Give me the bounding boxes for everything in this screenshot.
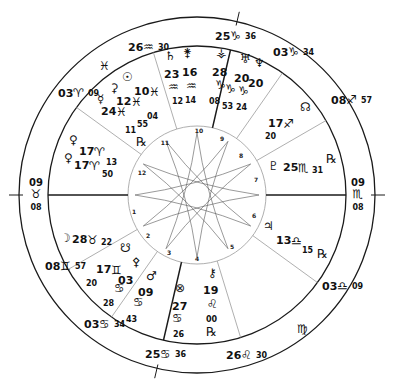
sign-icon: ♈ — [94, 145, 105, 159]
planet-southnode: ☋ — [120, 241, 131, 255]
planet-vesta: ⚶ — [216, 46, 226, 60]
svg-text:26: 26 — [128, 41, 144, 54]
pluto-retro-icon: ℞ — [326, 152, 337, 166]
planet-neptune-sign: ♑ — [238, 84, 249, 98]
sign-icon: ♋ — [114, 281, 125, 295]
svg-text:08: 08 — [209, 97, 221, 106]
planet-venus-deg: 17♈ — [79, 145, 105, 159]
svg-text:24: 24 — [236, 103, 248, 112]
svg-text:11: 11 — [125, 126, 137, 135]
svg-text:17: 17 — [268, 117, 283, 130]
svg-text:20: 20 — [265, 132, 277, 141]
angle-tick-4 — [155, 365, 158, 379]
svg-text:25: 25 — [145, 348, 160, 361]
svg-text:31: 31 — [312, 166, 324, 175]
house-number-7: 7 — [254, 176, 258, 183]
svg-text:30: 30 — [256, 351, 268, 360]
svg-text:15: 15 — [302, 246, 314, 255]
sign-icon: ♊ — [60, 259, 71, 273]
planet-juno-min: 14 — [185, 96, 197, 105]
house-number-11: 11 — [161, 139, 169, 146]
sign-icon: ♋ — [160, 347, 171, 361]
house-number-2: 2 — [146, 232, 150, 239]
svg-text:17: 17 — [74, 159, 89, 172]
pluto-icon: ♇ — [268, 159, 279, 173]
svg-text:08: 08 — [30, 203, 42, 212]
planet-neptune: ♆ — [254, 56, 265, 70]
cusp-label-ic: 25♋36 — [145, 347, 187, 361]
neptune-icon: ♆ — [254, 56, 265, 70]
svg-text:03: 03 — [273, 46, 288, 59]
cusp-label-c9: 03♑34 — [273, 45, 315, 59]
svg-text:25: 25 — [283, 161, 298, 174]
svg-text:55: 55 — [137, 120, 149, 129]
house-number-6: 6 — [252, 212, 256, 219]
sun-icon: ☉ — [122, 70, 133, 84]
sign-icon: ♌ — [207, 297, 218, 311]
svg-text:34: 34 — [303, 48, 315, 57]
cusp-label-c3: 03♋34 — [84, 317, 126, 331]
house-number-1: 1 — [132, 208, 136, 215]
chiron-icon: ⚷ — [208, 266, 217, 280]
sign-icon: ♋ — [99, 317, 110, 331]
planet-venus2: ♀ — [64, 151, 73, 165]
svg-text:26: 26 — [173, 330, 185, 339]
planet-moon: ☽ — [60, 231, 71, 245]
svg-text:28: 28 — [103, 299, 115, 308]
chiron-retro-icon: ℞ — [206, 325, 217, 339]
mars-icon: ♂ — [146, 269, 157, 283]
planet-venus2-min: 50 — [102, 170, 114, 179]
planet-jupiter: ♃ — [263, 219, 274, 233]
svg-text:13: 13 — [106, 158, 117, 167]
planet-chiron: ⚷ — [208, 266, 217, 280]
house-number-10: 10 — [195, 127, 203, 134]
house-number-8: 8 — [239, 152, 243, 159]
cusp-label-c2: 08♊57 — [45, 259, 86, 273]
cusp-label-c8: 08♐57 — [331, 93, 372, 107]
sign-icon: ♒ — [186, 79, 197, 93]
svg-text:50: 50 — [102, 170, 114, 179]
svg-text:43: 43 — [126, 315, 137, 324]
cusp-label-asc: 09♉08 — [29, 177, 43, 212]
planet-chiron-sign: ♌ — [207, 297, 218, 311]
sign-icon: ♎ — [291, 234, 302, 248]
planet-pallas-sign: ♋ — [114, 281, 125, 295]
planet-jupiter-min: 15 — [302, 246, 314, 255]
planet-venus-min: 13 — [106, 158, 117, 167]
sign-icon: ♓ — [131, 95, 142, 109]
svg-text:34: 34 — [114, 320, 126, 329]
saturn-icon: ♄ — [165, 49, 176, 63]
planet-chiron-min: 00 — [206, 315, 218, 324]
planet-uranus-min: 53 — [222, 102, 233, 111]
cusp-label-dsc: 09♏08 — [351, 177, 365, 212]
sign-icon: ♈ — [89, 159, 100, 173]
svg-text:26: 26 — [226, 349, 242, 362]
planet-chiron-retro: ℞ — [206, 325, 217, 339]
planet-uranus-sign: ♑ — [225, 82, 236, 96]
planet-sun: ☉ — [122, 70, 133, 84]
planet-saturn-min: 12 — [172, 97, 183, 106]
planet-neptune-deg: 20 — [248, 77, 264, 90]
vesta-icon: ⚶ — [216, 46, 226, 60]
planet-northnode-deg: 17♐ — [268, 117, 294, 131]
planet-juno-deg: 16 — [182, 66, 198, 79]
planet-saturn: ♄ — [165, 49, 176, 63]
house-number-12: 12 — [138, 169, 146, 176]
svg-text:24: 24 — [101, 105, 117, 118]
northnode-icon: ☊ — [300, 100, 311, 114]
planet-pallas: ⚴ — [132, 255, 141, 269]
svg-text:57: 57 — [361, 96, 372, 105]
sign-icon: ♓ — [116, 105, 127, 119]
planet-jupiter-deg: 13♎ — [276, 234, 302, 248]
svg-text:12: 12 — [172, 97, 183, 106]
sign-icon: ♐ — [346, 93, 357, 107]
cusp-label-c12: 03♈09 — [58, 86, 100, 100]
sign-icon: ♎ — [337, 279, 348, 293]
planet-mars-min: 43 — [126, 315, 137, 324]
ceres-icon: ⚳ — [110, 81, 119, 95]
planet-ceres: ⚳ — [110, 81, 119, 95]
svg-text:13: 13 — [276, 234, 291, 247]
house-number-5: 5 — [230, 243, 234, 250]
mercury-icon: ☿ — [97, 92, 104, 106]
sign-icon: ♈ — [73, 86, 84, 100]
